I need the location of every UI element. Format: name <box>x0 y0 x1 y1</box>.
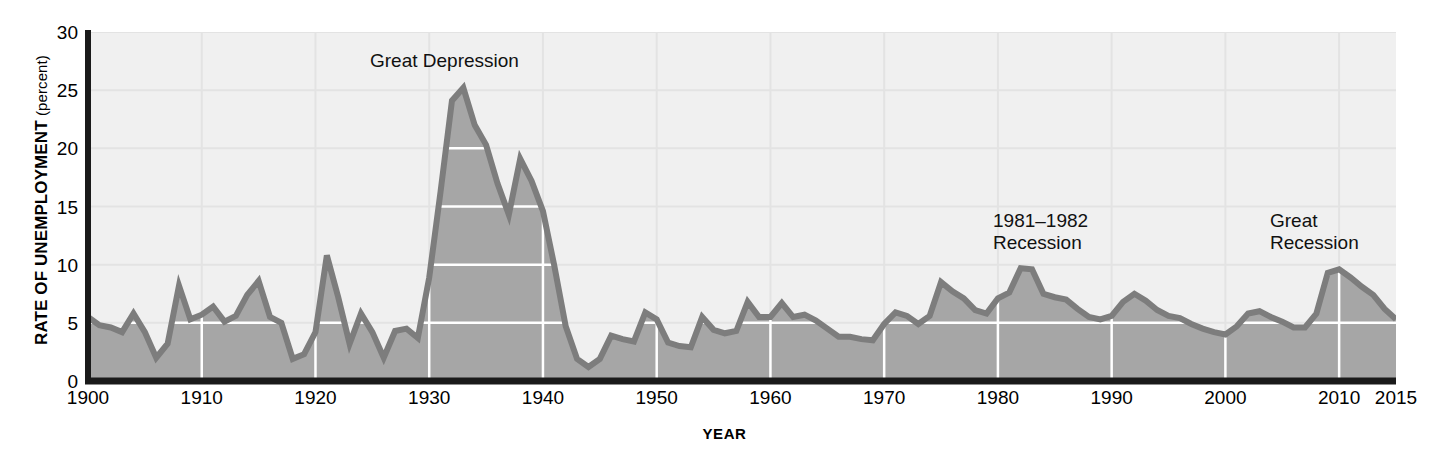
x-tick-label: 1990 <box>1072 388 1152 407</box>
x-tick-label: 1940 <box>503 388 583 407</box>
x-tick-label: 1980 <box>958 388 1038 407</box>
x-tick-label: 2000 <box>1185 388 1265 407</box>
x-tick-label: 1930 <box>389 388 469 407</box>
x-tick-label: 1950 <box>617 388 697 407</box>
annotation-great-recession: Great Recession <box>1270 210 1359 255</box>
x-tick-label: 1910 <box>162 388 242 407</box>
annotation-1981-1982-recession: 1981–1982 Recession <box>993 210 1088 255</box>
x-axis-title: YEAR <box>0 425 1449 442</box>
x-axis-ticks: 1900191019201930194019501960197019801990… <box>0 0 1449 460</box>
x-tick-label: 1970 <box>844 388 924 407</box>
x-tick-label: 1900 <box>48 388 128 407</box>
x-tick-label: 1960 <box>730 388 810 407</box>
annotation-great-depression: Great Depression <box>370 50 519 72</box>
unemployment-rate-chart: RATE OF UNEMPLOYMENT (percent) 051015202… <box>0 0 1449 460</box>
x-tick-label: 2015 <box>1356 388 1436 407</box>
x-tick-label: 1920 <box>275 388 355 407</box>
